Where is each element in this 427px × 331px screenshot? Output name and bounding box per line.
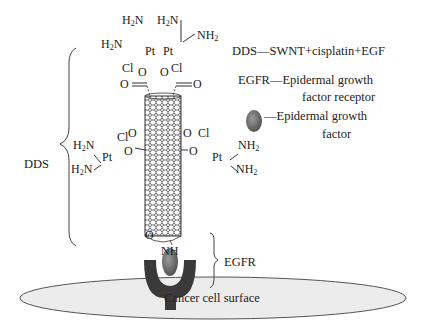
chlorine-1: Cl [122,62,133,74]
legend-egf-icon [246,110,262,132]
chlorine-right: Cl [198,127,209,139]
amine-h2n-1: H2N [122,14,143,28]
oxygen-carbonyl-2: O [193,78,202,90]
oxygen-2: O [160,66,169,78]
legend-egfr-line1: EGFR—Epidermal growth [238,74,373,87]
chlorine-left: Cl [117,131,128,143]
oxygen-left-ester: O [124,145,133,157]
oxygen-left-carbonyl: O [128,127,137,139]
chlorine-2: Cl [171,62,182,74]
nanotube-swnt [145,93,181,242]
amine-nh2-right-1: NH2 [238,139,259,153]
dds-label: DDS [24,158,49,171]
oxygen-right-ester: O [189,145,198,157]
legend-egfr-line2: factor receptor [302,91,375,104]
platinum-1: Pt [145,45,155,57]
amine-h2n-3: H2N [101,38,122,52]
oxygen-amide: O [145,229,154,241]
platinum-left: Pt [102,151,112,163]
oxygen-carbonyl-1: O [120,78,129,90]
oxygen-right-carbonyl: O [183,127,192,139]
legend-dds: DDS—SWNT+cisplatin+EGF [232,45,385,58]
amine-h2n-left-2: H2N [71,163,92,177]
legend-egf-line2: factor [322,128,351,141]
platinum-2: Pt [163,45,173,57]
legend-egf-line1: —Epidermal growth [264,110,367,123]
platinum-right: Pt [212,151,222,163]
cell-surface-label: Cancer cell surface [164,292,260,305]
egfr-label: EGFR [224,256,256,269]
amine-h2n-left-1: H2N [73,139,94,153]
amine-h2n-2: H2N [157,14,178,28]
amine-nh2-right-2: NH2 [236,163,257,177]
oxygen-1: O [138,66,147,78]
amide-nh: NH [161,245,178,257]
amine-nh2-1: NH2 [197,29,218,43]
